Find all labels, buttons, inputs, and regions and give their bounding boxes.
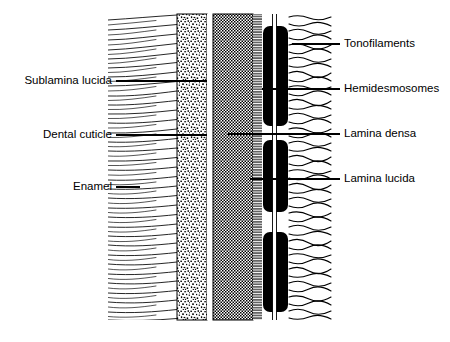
label-hemidesmosomes: Hemidesmosomes xyxy=(344,83,439,95)
figure-root: Sublamina lucida Dental cuticle Enamel T… xyxy=(0,0,450,342)
label-enamel: Enamel xyxy=(73,181,112,193)
dentogingival-junction-diagram xyxy=(0,0,450,342)
label-dental-cuticle: Dental cuticle xyxy=(43,129,112,141)
band-dental-cuticle xyxy=(177,14,207,320)
band-enamel xyxy=(108,14,177,321)
band-tonofilaments xyxy=(288,14,334,320)
band-lamina-densa xyxy=(213,14,253,320)
band-lamina-lucida xyxy=(253,14,263,320)
label-lamina-densa: Lamina densa xyxy=(344,128,416,140)
band-sublamina-lucida xyxy=(207,14,213,320)
label-tonofilaments: Tonofilaments xyxy=(344,38,415,50)
label-sublamina-lucida: Sublamina lucida xyxy=(24,75,112,87)
band-hemidesmosomes xyxy=(262,14,290,320)
label-lamina-lucida: Lamina lucida xyxy=(344,173,415,185)
